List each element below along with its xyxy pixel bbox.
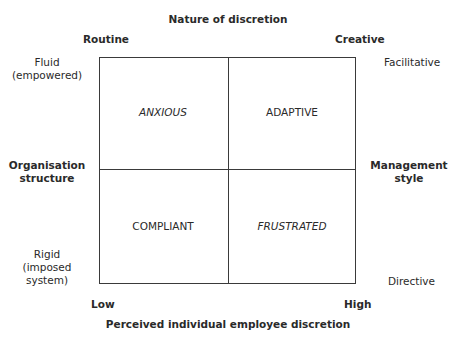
quadrant-frustrated: FRUSTRATED (228, 220, 356, 232)
left-top-label: Fluid (empowered) (0, 56, 94, 82)
quadrant-adaptive: ADAPTIVE (228, 106, 356, 118)
left-title-line2: structure (0, 172, 94, 185)
bottom-left-label: Low (91, 298, 115, 311)
bottom-right-label: High (344, 298, 371, 311)
left-bottom-label: Rigid (imposed system) (0, 248, 94, 287)
vertical-divider (228, 57, 229, 284)
top-left-label: Routine (83, 33, 129, 46)
left-title-line1: Organisation (0, 159, 94, 172)
top-axis-title: Nature of discretion (0, 13, 456, 26)
right-axis-title: Management style (362, 159, 456, 185)
left-axis-title: Organisation structure (0, 159, 94, 185)
quadrant-anxious: ANXIOUS (99, 106, 227, 118)
left-bottom-line2: (imposed (0, 261, 94, 274)
right-title-line2: style (362, 172, 456, 185)
quadrant-compliant: COMPLIANT (99, 220, 227, 232)
bottom-axis-title: Perceived individual employee discretion (0, 318, 456, 331)
left-bottom-line3: system) (0, 274, 94, 287)
right-top-label: Facilitative (384, 56, 440, 69)
top-right-label: Creative (335, 33, 385, 46)
right-title-line1: Management (362, 159, 456, 172)
left-bottom-line1: Rigid (0, 248, 94, 261)
horizontal-divider (99, 169, 356, 170)
right-bottom-label: Directive (388, 275, 435, 288)
left-top-line1: Fluid (0, 56, 94, 69)
left-top-line2: (empowered) (0, 69, 94, 82)
